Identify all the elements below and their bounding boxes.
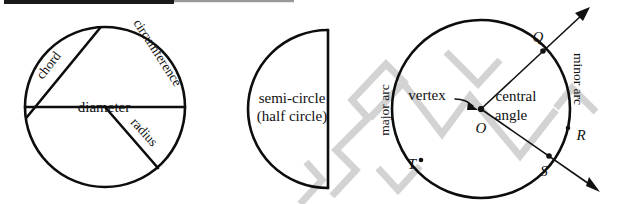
major-arc-label: major arc	[377, 84, 392, 135]
point-s-dot	[546, 153, 552, 159]
point-r-dot	[566, 126, 571, 131]
point-t-dot	[419, 158, 424, 163]
point-label-s: S	[540, 163, 548, 179]
minor-arc-label: minor arc	[571, 53, 586, 105]
diameter-label: diameter	[78, 99, 130, 115]
diagram-2-group: semi-circle (half circle)	[248, 30, 328, 188]
central-label: central	[496, 88, 537, 104]
vertex-label: vertex	[408, 87, 446, 103]
diagram-1-group: diameter chord radius circumference	[25, 16, 185, 187]
geometry-figure: diameter chord radius circumference semi…	[0, 0, 618, 204]
angle-label: angle	[495, 107, 528, 123]
radius-label: radius	[128, 115, 161, 150]
point-label-q: Q	[533, 29, 544, 45]
scan-artifact-fade	[174, 0, 294, 2]
diagram-3-group: vertex central angle major arc minor arc…	[377, 7, 600, 198]
point-label-o: O	[476, 120, 487, 136]
circumference-label: circumference	[130, 16, 185, 89]
figure-canvas: diameter chord radius circumference semi…	[0, 0, 618, 204]
ray-os-arrowhead	[586, 177, 600, 192]
semicircle-label-line1: semi-circle	[259, 90, 326, 106]
semicircle-label-line2: (half circle)	[257, 108, 327, 125]
point-label-r: R	[575, 127, 585, 143]
center-point-dot	[478, 106, 484, 112]
point-q-dot	[540, 48, 546, 54]
scan-artifact-strip	[4, 0, 174, 4]
watermark-zigzag	[300, 52, 596, 204]
